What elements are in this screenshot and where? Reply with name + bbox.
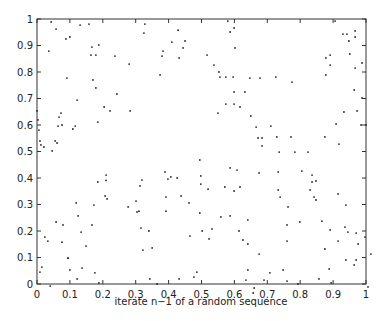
- data-point: [105, 174, 107, 176]
- data-point: [360, 124, 362, 126]
- data-point: [37, 119, 39, 121]
- data-point: [229, 215, 231, 217]
- data-point: [39, 140, 41, 142]
- data-point: [354, 30, 356, 32]
- data-point: [196, 271, 198, 273]
- data-point: [269, 272, 271, 274]
- data-point: [47, 240, 49, 242]
- data-point: [299, 221, 301, 223]
- data-point: [233, 190, 235, 192]
- data-point: [361, 97, 363, 99]
- data-point: [69, 269, 71, 271]
- data-point: [199, 159, 201, 161]
- data-point: [116, 93, 118, 95]
- y-tick-label: 0.4: [17, 173, 33, 184]
- data-point: [141, 179, 143, 181]
- scatter-chart: 00.10.20.30.40.50.60.70.80.91 00.10.20.3…: [0, 0, 386, 321]
- data-point: [349, 53, 351, 55]
- data-point: [207, 188, 209, 190]
- data-point: [365, 124, 367, 126]
- data-point: [40, 144, 42, 146]
- data-point: [142, 249, 144, 251]
- y-tick-label: 0.9: [17, 40, 33, 51]
- data-point: [220, 216, 222, 218]
- data-point: [178, 278, 180, 280]
- y-tick-label: 0.7: [17, 93, 33, 104]
- data-point: [318, 278, 320, 280]
- data-point: [325, 74, 327, 76]
- data-point: [149, 278, 151, 280]
- data-point: [67, 257, 69, 259]
- data-point: [313, 196, 315, 198]
- data-point: [370, 253, 372, 255]
- data-point: [49, 285, 51, 287]
- y-tick-label: 0.6: [17, 120, 33, 131]
- y-tick-label: 0.1: [17, 252, 33, 263]
- data-point: [135, 200, 137, 202]
- data-point: [311, 174, 313, 176]
- data-point: [189, 235, 191, 237]
- data-point: [144, 23, 146, 25]
- data-point: [92, 79, 94, 81]
- data-point: [287, 206, 289, 208]
- data-point: [257, 137, 259, 139]
- data-point: [58, 116, 60, 118]
- data-point: [276, 136, 278, 138]
- data-point: [36, 110, 38, 112]
- data-point: [343, 111, 345, 113]
- data-point: [109, 110, 111, 112]
- data-point: [244, 91, 246, 93]
- data-point: [38, 129, 40, 131]
- data-point: [77, 215, 79, 217]
- data-point: [259, 77, 261, 79]
- data-point: [324, 136, 326, 138]
- data-point: [48, 50, 50, 52]
- data-point: [127, 206, 129, 208]
- data-point: [255, 126, 257, 128]
- x-tick-label: 0: [34, 289, 40, 300]
- x-tick-label: 1: [363, 289, 369, 300]
- data-point: [138, 210, 140, 212]
- data-point: [80, 231, 82, 233]
- data-point: [253, 287, 255, 289]
- data-point: [309, 189, 311, 191]
- data-point: [159, 74, 161, 76]
- data-point: [171, 41, 173, 43]
- data-point: [328, 268, 330, 270]
- data-point: [94, 272, 96, 274]
- data-point: [290, 136, 292, 138]
- data-point: [277, 189, 279, 191]
- data-point: [184, 40, 186, 42]
- data-point: [233, 91, 235, 93]
- data-point: [75, 202, 77, 204]
- data-point: [161, 55, 163, 57]
- data-point: [206, 54, 208, 56]
- data-point: [247, 269, 249, 271]
- data-point: [282, 269, 284, 271]
- data-point: [97, 181, 99, 183]
- data-point: [167, 178, 169, 180]
- data-point: [95, 54, 97, 56]
- data-point: [227, 20, 229, 22]
- data-point: [315, 199, 317, 201]
- data-point: [54, 140, 56, 142]
- data-point: [258, 253, 260, 255]
- data-point: [353, 89, 355, 91]
- data-point: [315, 180, 317, 182]
- data-point: [345, 259, 347, 261]
- data-point: [286, 240, 288, 242]
- data-point: [178, 57, 180, 59]
- data-point: [252, 292, 254, 294]
- data-point: [346, 33, 348, 35]
- data-point: [170, 176, 172, 178]
- data-point: [294, 151, 296, 153]
- data-point: [311, 181, 313, 183]
- data-point: [88, 23, 90, 25]
- plot-frame: [37, 19, 366, 284]
- data-point: [201, 230, 203, 232]
- data-point: [286, 280, 288, 282]
- data-point: [91, 224, 93, 226]
- y-tick-label: 0.2: [17, 226, 33, 237]
- data-point: [279, 196, 281, 198]
- data-point: [143, 32, 145, 34]
